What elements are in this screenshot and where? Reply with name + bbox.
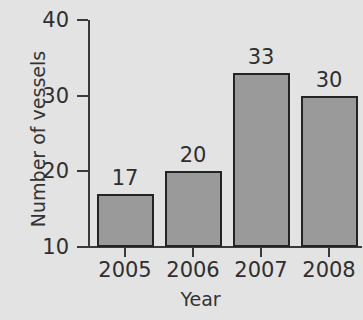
- y-tick-label: 10: [9, 235, 69, 259]
- y-tick-mark: [77, 19, 88, 21]
- bar-value-label: 17: [85, 166, 165, 190]
- x-tick-mark: [124, 248, 126, 257]
- y-tick-label: 20: [9, 159, 69, 183]
- y-tick-mark: [77, 95, 88, 97]
- bar: [97, 194, 154, 247]
- x-tick-mark: [192, 248, 194, 257]
- y-axis-line: [88, 20, 90, 248]
- bar-chart: Number of vessels 10203040 2005200620072…: [0, 0, 363, 320]
- x-tick-label: 2008: [284, 258, 363, 282]
- bar-value-label: 33: [221, 45, 301, 69]
- x-tick-mark: [260, 248, 262, 257]
- y-axis-title: Number of vessels: [27, 39, 49, 239]
- y-tick-label: 40: [9, 8, 69, 32]
- bar: [165, 171, 222, 247]
- y-tick-label: 30: [9, 84, 69, 108]
- bar-value-label: 30: [289, 68, 363, 92]
- x-axis-title: Year: [0, 288, 363, 310]
- bar: [233, 73, 290, 247]
- y-tick-mark: [77, 246, 88, 248]
- bar: [301, 96, 358, 247]
- x-tick-mark: [328, 248, 330, 257]
- bar-value-label: 20: [153, 143, 233, 167]
